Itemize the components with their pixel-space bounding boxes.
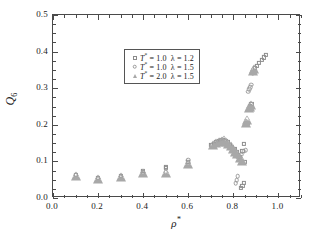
axis-tick: [53, 189, 56, 190]
axis-tick: [296, 198, 301, 199]
axis-tick: [53, 97, 56, 98]
y-tick-label: 0.5: [36, 9, 48, 19]
axis-tick: [143, 193, 144, 198]
y-tick-label: 0.4: [36, 46, 48, 56]
axis-tick: [177, 15, 178, 18]
axis-tick: [296, 125, 301, 126]
axis-tick: [53, 125, 58, 126]
axis-tick: [298, 152, 301, 153]
axis-tick: [233, 193, 234, 198]
axis-tick: [298, 189, 301, 190]
axis-tick: [278, 193, 279, 198]
axis-tick: [109, 195, 110, 198]
axis-tick: [53, 79, 56, 80]
axis-tick: [98, 193, 99, 198]
y-axis-title: Q6: [3, 93, 19, 106]
axis-tick: [188, 15, 189, 20]
x-tick-label: 0.2: [91, 201, 103, 211]
axis-tick: [53, 15, 58, 16]
data-point: [264, 53, 268, 57]
data-point: [93, 174, 103, 183]
axis-tick: [64, 15, 65, 18]
axis-tick: [256, 15, 257, 18]
y-tick-label: 0.2: [36, 119, 48, 129]
axis-tick: [298, 70, 301, 71]
axis-tick: [296, 161, 301, 162]
axis-tick: [211, 15, 212, 18]
axis-tick: [177, 195, 178, 198]
axis-tick: [245, 15, 246, 18]
data-point: [237, 156, 247, 165]
legend-marker-triangle: [129, 71, 140, 80]
data-point: [243, 148, 248, 153]
axis-tick: [298, 180, 301, 181]
data-point: [71, 172, 81, 181]
axis-tick: [154, 15, 155, 18]
axis-tick: [109, 15, 110, 18]
axis-tick: [121, 15, 122, 18]
axis-tick: [53, 24, 56, 25]
axis-tick: [298, 143, 301, 144]
axis-tick: [267, 195, 268, 198]
axis-tick: [53, 33, 56, 34]
axis-tick: [290, 195, 291, 198]
x-tick-label: 0.8: [226, 201, 238, 211]
axis-tick: [76, 15, 77, 18]
data-point: [246, 100, 256, 109]
x-tick-label: 0.4: [136, 201, 148, 211]
axis-tick: [245, 195, 246, 198]
y-tick-label: 0.3: [36, 82, 48, 92]
axis-tick: [53, 88, 58, 89]
data-point: [116, 173, 126, 182]
axis-tick: [296, 88, 301, 89]
legend: T* = 1.0 λ = 1.2 T* = 1.0 λ = 1.5 T* = 2…: [124, 49, 200, 84]
axis-tick: [166, 195, 167, 198]
y-tick-label: 0.1: [36, 155, 48, 165]
axis-tick: [290, 15, 291, 18]
axis-tick: [211, 195, 212, 198]
x-tick-label: 0.0: [46, 201, 58, 211]
axis-tick: [298, 97, 301, 98]
data-point: [239, 186, 243, 190]
axis-tick: [53, 52, 58, 53]
figure: T* = 1.0 λ = 1.2 T* = 1.0 λ = 1.5 T* = 2…: [0, 0, 315, 243]
axis-tick: [298, 33, 301, 34]
axis-tick: [53, 61, 56, 62]
axis-tick: [298, 24, 301, 25]
x-tick-label: 1.0: [272, 201, 284, 211]
axis-tick: [53, 42, 56, 43]
legend-marker-circle: [129, 62, 140, 71]
legend-item: T* = 2.0 λ = 1.5: [129, 71, 194, 80]
axis-tick: [53, 171, 56, 172]
data-point: [183, 159, 193, 168]
axis-tick: [200, 195, 201, 198]
axis-tick: [154, 195, 155, 198]
axis-tick: [53, 134, 56, 135]
axis-tick: [222, 15, 223, 18]
axis-tick: [256, 195, 257, 198]
axis-tick: [298, 107, 301, 108]
axis-tick: [64, 195, 65, 198]
axis-tick: [53, 161, 58, 162]
axis-tick: [121, 195, 122, 198]
axis-tick: [296, 52, 301, 53]
axis-tick: [200, 15, 201, 18]
axis-tick: [53, 152, 56, 153]
axis-tick: [296, 15, 301, 16]
x-axis-title: ρ*: [171, 215, 180, 229]
data-point: [242, 116, 252, 125]
axis-tick: [76, 195, 77, 198]
axis-tick: [132, 15, 133, 18]
axis-tick: [233, 15, 234, 20]
data-point: [249, 82, 254, 87]
axis-tick: [53, 116, 56, 117]
axis-tick: [98, 15, 99, 20]
axis-tick: [132, 195, 133, 198]
axis-tick: [53, 107, 56, 108]
axis-tick: [298, 42, 301, 43]
data-point: [161, 168, 171, 177]
legend-label: T* = 2.0 λ = 1.5: [140, 70, 194, 81]
axis-tick: [53, 198, 58, 199]
axis-tick: [53, 180, 56, 181]
axis-tick: [298, 171, 301, 172]
